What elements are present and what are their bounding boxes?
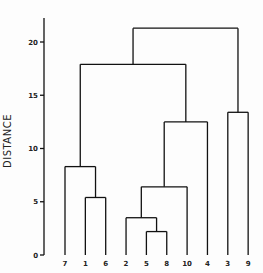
y-tick-label: 20 [28, 39, 38, 47]
leaf-label: 5 [144, 260, 149, 268]
leaf-label: 6 [103, 260, 108, 268]
y-tick-label: 15 [28, 92, 38, 100]
leaf-label: 4 [205, 260, 210, 268]
y-axis: 05101520 [28, 18, 44, 260]
leaf-label: 10 [182, 260, 192, 268]
leaf-labels: 71625810439 [63, 260, 251, 268]
dendrogram-chart: 05101520 71625810439 [0, 0, 263, 273]
y-tick-label: 0 [33, 252, 38, 260]
leaf-label: 1 [83, 260, 88, 268]
leaf-label: 3 [225, 260, 230, 268]
leaf-label: 7 [63, 260, 68, 268]
leaf-label: 9 [246, 260, 251, 268]
leaf-label: 2 [124, 260, 129, 268]
leaf-label: 8 [164, 260, 169, 268]
dendrogram-tree [65, 28, 248, 255]
y-tick-label: 5 [33, 198, 38, 206]
y-tick-label: 10 [28, 145, 38, 153]
